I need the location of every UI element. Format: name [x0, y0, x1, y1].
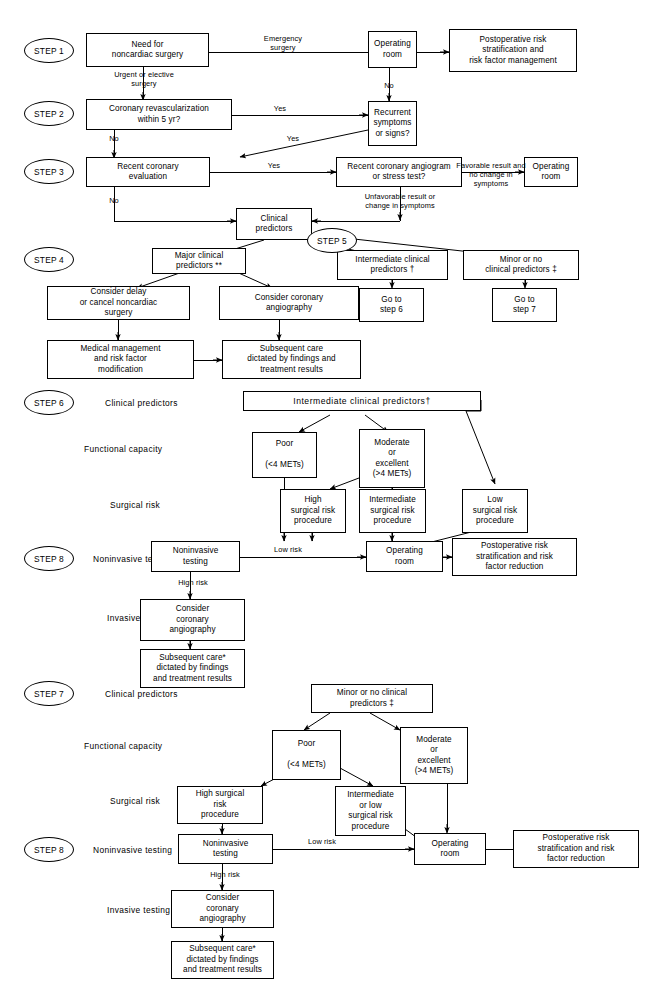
step-badge-1-label: STEP 1	[34, 46, 64, 56]
box-medical-management[interactable]: Medical management and risk factor modif…	[47, 340, 194, 379]
step-badge-8a: STEP 8	[24, 546, 74, 571]
edge-label-high-risk-6: High risk	[168, 578, 218, 587]
box-high-surgical-risk-6[interactable]: High surgical risk procedure	[280, 489, 346, 533]
step-badge-8a-label: STEP 8	[34, 554, 64, 564]
box-recent-coronary-evaluation[interactable]: Recent coronary evaluation	[86, 157, 210, 187]
step-badge-2-label: STEP 2	[34, 109, 64, 119]
edge-label-yes-step2: Yes	[262, 104, 298, 113]
step-badge-4: STEP 4	[24, 247, 74, 272]
connector-consider-angio-down	[279, 320, 280, 340]
box-intermediate-clinical-predictors-5[interactable]: Intermediate clinical predictors †	[337, 250, 448, 280]
box-go-to-step-7[interactable]: Go to step 7	[492, 288, 557, 322]
row-label-invasive-testing-7: Invasive testing	[107, 905, 170, 915]
row-label-functional-capacity-6: Functional capacity	[84, 444, 162, 454]
edge-label-high-risk-7: High risk	[200, 870, 250, 879]
box-clinical-predictors[interactable]: Clinical predictors	[236, 208, 312, 240]
box-moderate-excellent-7[interactable]: Moderate or excellent (>4 METs)	[400, 727, 468, 784]
edge-label-favorable-result: Favorable result and no change in sympto…	[455, 161, 527, 188]
step-badge-8b-label: STEP 8	[34, 845, 64, 855]
step-badge-5-label: STEP 5	[317, 236, 347, 246]
step-badge-6-label: STEP 6	[34, 398, 64, 408]
edge-label-low-risk-6: Low risk	[266, 545, 310, 554]
box-moderate-excellent-6[interactable]: Moderate or excellent (>4 METs)	[359, 429, 425, 488]
box-postoperative-risk-reduction-6[interactable]: Postoperative risk stratification and ri…	[452, 538, 577, 576]
box-recurrent-symptoms-or-signs[interactable]: Recurrent symptoms or signs?	[368, 101, 417, 146]
connector-eval-to-angiogram	[210, 172, 336, 173]
box-low-surgical-risk-6[interactable]: Low surgical risk procedure	[462, 489, 528, 533]
connector-unfav-left	[312, 221, 400, 222]
edge-label-emergency-surgery: Emergency surgery	[228, 34, 338, 52]
edge-label-yes-step3: Yes	[256, 161, 292, 170]
edge-label-no-step2: No	[96, 134, 132, 143]
box-recent-coronary-angiogram-stress-test[interactable]: Recent coronary angiogram or stress test…	[336, 157, 462, 187]
box-operating-room-1[interactable]: Operating room	[368, 31, 417, 68]
flowchart-canvas: STEP 1 STEP 2 STEP 3 STEP 4 STEP 5 STEP …	[0, 0, 652, 989]
step-badge-7-label: STEP 7	[34, 689, 64, 699]
box-operating-room-6[interactable]: Operating room	[366, 541, 443, 572]
box-noninvasive-testing-6[interactable]: Noninvasive testing	[151, 541, 240, 572]
box-consider-coronary-angiography-4[interactable]: Consider coronary angiography	[219, 286, 359, 320]
step-badge-1: STEP 1	[24, 38, 74, 63]
connector-consider-delay-down	[118, 320, 119, 340]
connector-revasc-to-recurrent	[232, 115, 368, 116]
box-high-surgical-risk-7[interactable]: High surgical risk procedure	[177, 786, 263, 824]
step-badge-8b: STEP 8	[24, 837, 74, 862]
connector-or1-to-postop	[417, 52, 449, 53]
connector-eval-no-right	[114, 221, 236, 222]
row-label-noninvasive-testing-7: Noninvasive testing	[93, 845, 172, 855]
step-badge-2: STEP 2	[24, 101, 74, 126]
connector-angio7-down	[222, 927, 223, 941]
box-subsequent-care-6[interactable]: Subsequent care* dictated by findings an…	[140, 649, 245, 688]
connector-nit7-to-or7	[273, 849, 414, 850]
box-operating-room-7[interactable]: Operating room	[414, 833, 486, 865]
step-badge-7: STEP 7	[24, 681, 74, 706]
box-intermediate-or-low-surgical-risk-7[interactable]: Intermediate or low surgical risk proced…	[335, 786, 406, 836]
step-badge-5: STEP 5	[307, 228, 357, 253]
edge-label-no-1: No	[371, 81, 407, 90]
box-go-to-step-6[interactable]: Go to step 6	[359, 288, 424, 322]
step-badge-3-label: STEP 3	[34, 167, 64, 177]
box-consider-coronary-angiography-6[interactable]: Consider coronary angiography	[140, 599, 245, 641]
box-minor-no-clinical-predictors-5[interactable]: Minor or no clinical predictors ‡	[463, 250, 579, 280]
edge-label-urgent-elective: Urgent or elective surgery	[88, 70, 200, 88]
connector-medmgmt-to-subseq	[194, 360, 222, 361]
box-operating-room-3[interactable]: Operating room	[524, 157, 578, 187]
box-poor-6[interactable]: Poor (<4 METs)	[252, 432, 317, 478]
step-badge-4-label: STEP 4	[34, 255, 64, 265]
box-intermediate-surgical-risk-6[interactable]: Intermediate surgical risk procedure	[359, 489, 426, 533]
box-intermediate-clinical-predictors-6[interactable]: Intermediate clinical predictors†	[243, 391, 481, 411]
box-need-noncardiac-surgery[interactable]: Need for noncardiac surgery	[86, 33, 209, 67]
box-minor-no-clinical-predictors-7[interactable]: Minor or no clinical predictors ‡	[311, 684, 433, 713]
box-noninvasive-testing-7[interactable]: Noninvasive testing	[178, 834, 273, 864]
row-label-surgical-risk-6: Surgical risk	[110, 500, 160, 510]
box-postoperative-risk-reduction-7[interactable]: Postoperative risk stratification and ri…	[513, 830, 639, 868]
edge-label-no-step3: No	[96, 196, 132, 205]
connector-nit6-to-or6	[240, 557, 366, 558]
connector-need-to-or	[209, 52, 379, 53]
box-postoperative-risk-management[interactable]: Postoperative risk stratification and ri…	[449, 29, 577, 72]
row-label-clinical-predictors-6: Clinical predictors	[105, 398, 178, 408]
edge-label-yes-recurrent: Yes	[275, 134, 311, 143]
row-label-surgical-risk-7: Surgical risk	[110, 796, 160, 806]
box-subsequent-care-7[interactable]: Subsequent care* dictated by findings an…	[171, 941, 274, 979]
box-poor-7[interactable]: Poor (<4 METs)	[272, 730, 341, 780]
step-badge-6: STEP 6	[24, 390, 74, 415]
box-major-clinical-predictors[interactable]: Major clinical predictors **	[152, 248, 246, 274]
row-label-functional-capacity-7: Functional capacity	[84, 741, 162, 751]
edge-label-low-risk-7: Low risk	[300, 837, 344, 846]
step-badge-3: STEP 3	[24, 159, 74, 184]
row-label-clinical-predictors-7: Clinical predictors	[105, 689, 178, 699]
box-coronary-revascularization-5yr[interactable]: Coronary revascularization within 5 yr?	[86, 99, 232, 130]
box-consider-delay-or-cancel[interactable]: Consider delay or cancel noncardiac surg…	[47, 286, 190, 320]
box-consider-coronary-angiography-7[interactable]: Consider coronary angiography	[171, 890, 274, 928]
edge-label-unfavorable-result: Unfavorable result or change in symptoms	[340, 192, 460, 210]
box-subsequent-care-4[interactable]: Subsequent care dictated by findings and…	[222, 340, 361, 379]
